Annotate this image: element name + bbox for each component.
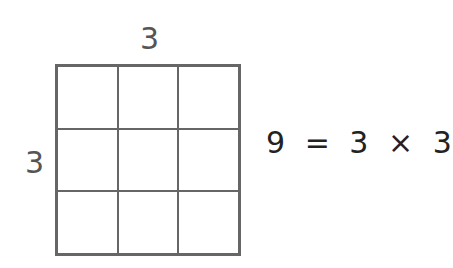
grid-cell — [57, 66, 118, 129]
equals-sign: = — [305, 128, 331, 158]
equation-result: 9 — [266, 128, 286, 158]
grid-cell — [118, 129, 179, 192]
grid-cell — [178, 66, 239, 129]
times-sign: × — [388, 128, 414, 158]
top-dimension-label: 3 — [140, 24, 159, 54]
equation-factor-b: 3 — [433, 128, 453, 158]
grid-cell — [118, 191, 179, 254]
grid-cell — [57, 129, 118, 192]
grid-cell — [178, 191, 239, 254]
equation-factor-a: 3 — [349, 128, 369, 158]
side-dimension-label: 3 — [25, 148, 44, 178]
grid-cell — [118, 66, 179, 129]
square-grid — [55, 64, 241, 256]
equation: 9 = 3 × 3 — [266, 128, 453, 158]
grid-cell — [57, 191, 118, 254]
grid-cell — [178, 129, 239, 192]
